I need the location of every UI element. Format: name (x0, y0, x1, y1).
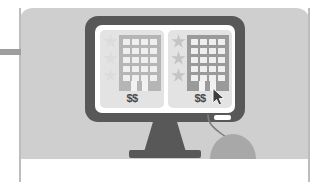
listing-card-left[interactable]: $$ (100, 30, 164, 108)
star-icon (103, 68, 118, 83)
price-label-left: $$ (100, 92, 164, 104)
star-icon (171, 68, 186, 83)
illustration-canvas: $$ $$ (0, 0, 323, 182)
panel-edge-left (19, 8, 21, 182)
wall-trim-bar (0, 49, 21, 55)
star-rating-right (171, 34, 187, 92)
star-icon (171, 34, 186, 49)
monitor-stand-base (129, 150, 201, 158)
star-icon (103, 34, 118, 49)
star-rating-left (103, 34, 119, 92)
building-window-grid (191, 39, 225, 81)
mouse-pointer-icon (212, 88, 226, 106)
star-icon (103, 51, 118, 66)
building-door-icon (199, 81, 205, 91)
building-door-icon (142, 81, 148, 91)
building-icon-left (119, 35, 161, 91)
star-icon (171, 51, 186, 66)
panel-edge-right (308, 8, 310, 182)
building-door-icon (131, 81, 137, 91)
building-icon-right (187, 35, 229, 91)
building-window-grid (123, 39, 157, 81)
